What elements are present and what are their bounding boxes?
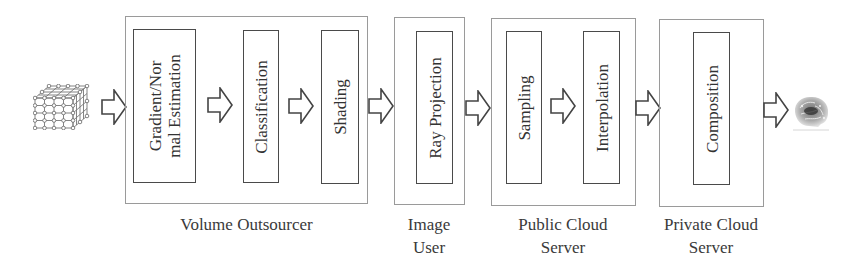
step-gradient-normal-estimation: Gradient/Nor mal Estimation <box>133 29 196 183</box>
step-ray-projection: Ray Projection <box>416 31 453 184</box>
arrow-right-icon <box>465 90 491 126</box>
group-label-public-cloud-server: Public Cloud Server <box>488 213 638 259</box>
step-label: mal Estimation <box>165 54 184 157</box>
arrow-right-icon <box>101 89 127 125</box>
step-label: Ray Projection <box>425 57 444 159</box>
step-interpolation: Interpolation <box>583 31 620 184</box>
arrow-right-icon <box>550 88 576 124</box>
step-shading: Shading <box>321 30 359 184</box>
arrow-right-icon <box>288 88 314 124</box>
rendered-brain-image-icon <box>791 94 831 132</box>
group-label-volume-outsourcer: Volume Outsourcer <box>125 213 368 236</box>
step-label: Interpolation <box>592 64 611 152</box>
arrow-right-icon <box>635 90 661 126</box>
step-label: Shading <box>331 79 350 135</box>
step-classification: Classification <box>243 30 279 183</box>
arrow-right-icon <box>368 88 394 124</box>
step-label: Gradient/Nor <box>146 54 165 157</box>
step-label: Sampling <box>515 75 534 140</box>
step-label: Composition <box>702 65 721 153</box>
step-sampling: Sampling <box>506 31 542 184</box>
group-label-image-user: Image User <box>389 213 469 259</box>
step-composition: Composition <box>693 32 730 185</box>
arrow-right-icon <box>763 92 789 128</box>
group-label-private-cloud-server: Private Cloud Server <box>646 213 776 259</box>
step-label: Classification <box>252 60 271 153</box>
voxel-lattice-cube-icon <box>33 84 95 130</box>
arrow-right-icon <box>207 87 233 123</box>
